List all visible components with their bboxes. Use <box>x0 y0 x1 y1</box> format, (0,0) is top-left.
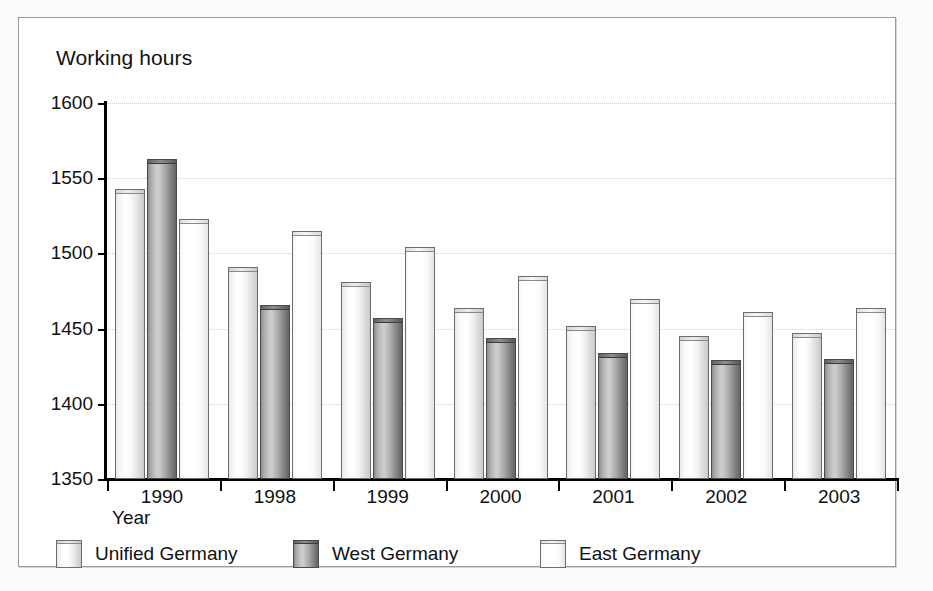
bar-cap <box>342 283 370 287</box>
x-axis-tick-label: 1990 <box>141 486 183 508</box>
bar-west-germany-1998 <box>260 305 290 479</box>
x-axis-tick-label: 2002 <box>705 486 747 508</box>
y-axis-tick <box>98 178 107 180</box>
legend-item-west-germany[interactable]: West Germany <box>293 540 458 568</box>
bar-cap <box>712 361 740 365</box>
y-axis-tick-label: 1500 <box>51 242 93 264</box>
bar-cap <box>744 313 772 317</box>
legend-swatch <box>540 540 566 568</box>
bar-west-germany-2001 <box>598 353 628 479</box>
x-axis-tick <box>107 481 109 491</box>
bar-cap <box>148 160 176 164</box>
y-axis-tick-label: 1600 <box>51 92 93 114</box>
x-axis-tick <box>333 481 335 491</box>
bar-cap <box>599 354 627 358</box>
bar-cap <box>567 327 595 331</box>
legend-label: West Germany <box>332 543 458 565</box>
chart-panel: Working hours 135014001450150015501600 1… <box>18 17 896 567</box>
gridline <box>107 178 897 179</box>
bar-cap <box>374 319 402 323</box>
chart-page: Working hours 135014001450150015501600 1… <box>0 0 933 591</box>
bar-cap <box>229 268 257 272</box>
x-axis-tick-label: 1999 <box>367 486 409 508</box>
x-axis-tick-label: 2001 <box>592 486 634 508</box>
bar-cap <box>180 220 208 224</box>
bar-cap <box>406 248 434 252</box>
bar-east-germany-1998 <box>292 231 322 479</box>
bar-cap <box>519 277 547 281</box>
bar-cap <box>455 309 483 313</box>
bar-unified-germany-1990 <box>115 189 145 479</box>
y-axis-tick <box>98 329 107 331</box>
bar-unified-germany-2000 <box>454 308 484 479</box>
bar-east-germany-1999 <box>405 247 435 479</box>
legend-swatch <box>293 540 319 568</box>
bar-cap <box>261 306 289 310</box>
bar-east-germany-2003 <box>856 308 886 479</box>
legend-swatch-cap <box>294 541 318 544</box>
bar-east-germany-2001 <box>630 299 660 479</box>
x-axis-label: Year <box>112 507 150 529</box>
x-axis-tick <box>220 481 222 491</box>
legend-label: Unified Germany <box>95 543 238 565</box>
bar-unified-germany-2001 <box>566 326 596 479</box>
y-axis-tick-label: 1450 <box>51 317 93 339</box>
bar-cap <box>487 339 515 343</box>
bar-unified-germany-2002 <box>679 336 709 479</box>
bar-east-germany-2002 <box>743 312 773 479</box>
bar-west-germany-2000 <box>486 338 516 479</box>
gridline <box>107 253 897 254</box>
legend-label: East Germany <box>579 543 700 565</box>
x-axis-tick-label: 2003 <box>818 486 860 508</box>
x-axis-tick-label: 2000 <box>479 486 521 508</box>
x-axis-tick <box>446 481 448 491</box>
y-axis-tick <box>98 253 107 255</box>
bar-west-germany-2002 <box>711 360 741 479</box>
legend-item-unified-germany[interactable]: Unified Germany <box>56 540 238 568</box>
plot-area: 135014001450150015501600 <box>107 103 897 479</box>
y-axis-tick <box>98 103 107 105</box>
bar-cap <box>793 334 821 338</box>
gridline <box>107 329 897 330</box>
legend-swatch <box>56 540 82 568</box>
bar-west-germany-2003 <box>824 359 854 479</box>
bar-west-germany-1990 <box>147 159 177 479</box>
x-axis-tick <box>671 481 673 491</box>
x-axis-tick-label: 1998 <box>254 486 296 508</box>
bar-east-germany-1990 <box>179 219 209 479</box>
y-axis-tick <box>98 479 107 481</box>
bar-cap <box>825 360 853 364</box>
y-axis-title: Working hours <box>56 46 192 70</box>
x-axis-tick <box>784 481 786 491</box>
legend-swatch-cap <box>541 541 565 544</box>
y-axis-tick-label: 1400 <box>51 392 93 414</box>
legend-swatch-cap <box>57 541 81 544</box>
bar-cap <box>680 337 708 341</box>
bar-cap <box>857 309 885 313</box>
gridline <box>107 103 897 104</box>
bar-east-germany-2000 <box>518 276 548 479</box>
x-axis-tick <box>897 481 899 491</box>
bar-cap <box>116 190 144 194</box>
legend-item-east-germany[interactable]: East Germany <box>540 540 700 568</box>
bar-cap <box>631 300 659 304</box>
chart-legend: Unified GermanyWest GermanyEast Germany <box>56 537 876 571</box>
bar-unified-germany-1998 <box>228 267 258 479</box>
y-axis-tick-label: 1550 <box>51 167 93 189</box>
x-axis-tick <box>558 481 560 491</box>
bar-unified-germany-1999 <box>341 282 371 479</box>
bar-cap <box>293 232 321 236</box>
y-axis-tick <box>98 404 107 406</box>
bar-unified-germany-2003 <box>792 333 822 479</box>
bar-west-germany-1999 <box>373 318 403 479</box>
y-axis-tick-label: 1350 <box>51 468 93 490</box>
